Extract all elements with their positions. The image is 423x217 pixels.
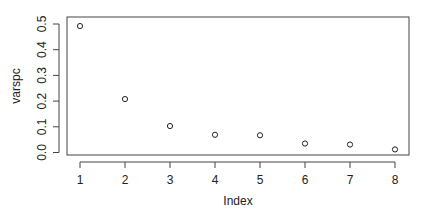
x-tick-label: 6 [302,173,309,187]
data-point [257,133,262,138]
x-axis-title: Index [223,194,252,208]
y-tick-label: 0.5 [35,15,49,32]
x-axis: 12345678 [77,162,399,187]
scatter-plot: 0.00.10.20.30.40.5 12345678 Index varspc [0,0,423,217]
plot-frame [67,17,409,155]
x-tick-label: 5 [257,173,264,187]
y-axis: 0.00.10.20.30.40.5 [35,15,59,161]
x-tick-label: 2 [122,173,129,187]
data-point [302,141,307,146]
y-tick-label: 0.2 [35,92,49,109]
x-tick-label: 7 [347,173,354,187]
y-tick-label: 0.4 [35,41,49,58]
y-axis-title: varspc [9,68,23,103]
data-point [122,96,127,101]
x-tick-label: 1 [77,173,84,187]
data-point [167,123,172,128]
y-tick-label: 0.0 [35,144,49,161]
y-tick-label: 0.3 [35,67,49,84]
y-tick-label: 0.1 [35,118,49,135]
x-tick-label: 4 [212,173,219,187]
x-tick-label: 3 [167,173,174,187]
data-point [347,142,352,147]
data-points [77,23,397,152]
data-point [77,23,82,28]
x-tick-label: 8 [392,173,399,187]
data-point [392,147,397,152]
data-point [212,132,217,137]
